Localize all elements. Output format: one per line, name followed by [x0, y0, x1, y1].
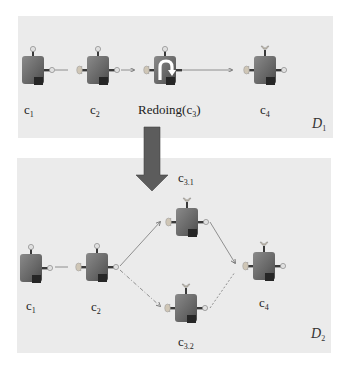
component-diagram: c1 c2 Redoing(c3) c4 D1 c3.1 c1 c2 c4 c3… [0, 0, 347, 371]
d1-label-c3: Redoing(c3) [138, 102, 201, 119]
panel-d2 [17, 158, 331, 353]
